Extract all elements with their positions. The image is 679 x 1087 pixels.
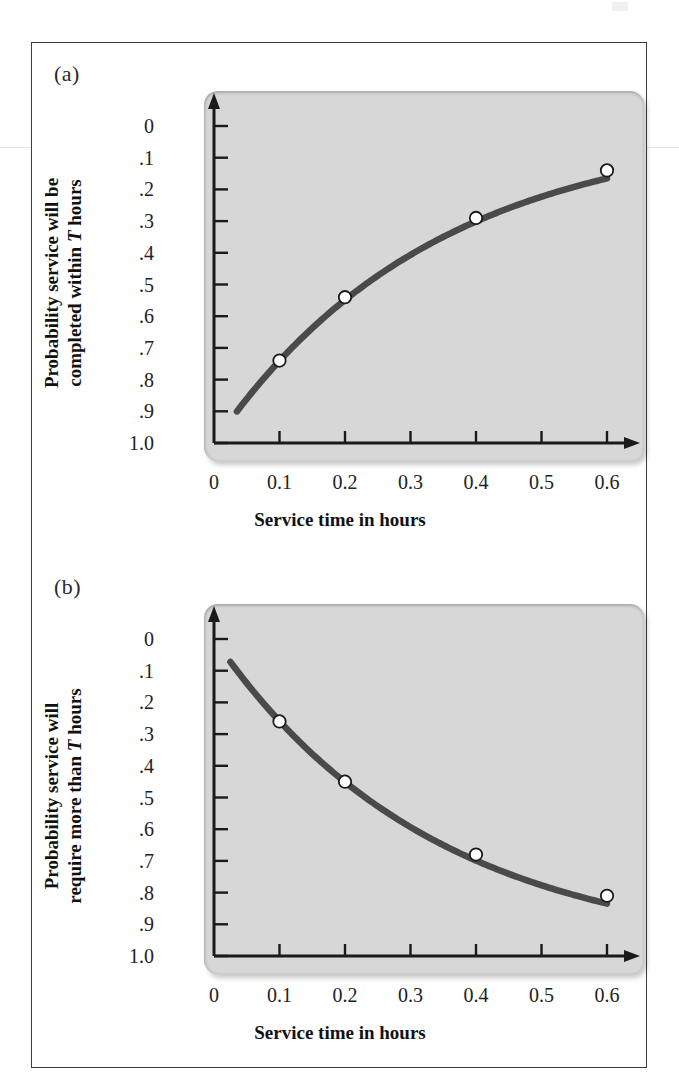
y-tick-label: 0 <box>96 115 154 138</box>
y-tick-label: .2 <box>96 691 154 714</box>
plot-area-b <box>204 604 644 974</box>
y-tick-label: .4 <box>96 241 154 264</box>
chart-panel-b: (b) Probability service will require mor… <box>32 556 648 1069</box>
y-tick-label: .8 <box>96 881 154 904</box>
y-tick-label: 1.0 <box>96 432 154 455</box>
plot-graphic-a <box>204 91 674 491</box>
y-tick-label: .3 <box>96 723 154 746</box>
x-tick-label: 0.5 <box>529 471 554 494</box>
y-axis-title-a-line1: Probability service will be <box>41 178 62 388</box>
y-tick-label: .1 <box>96 146 154 169</box>
x-tick-label: 0.2 <box>333 471 358 494</box>
y-axis-title-a-line2-post: hours <box>64 179 85 230</box>
y-tick-label: .3 <box>96 210 154 233</box>
x-tick-label: 0 <box>209 471 219 494</box>
chart-panel-a: (a) Probability service will be complete… <box>32 43 648 556</box>
x-tick-label: 0.2 <box>333 984 358 1007</box>
y-axis-title-b-line2-pre: require more than <box>64 751 85 904</box>
y-axis-title-b-line2-post: hours <box>64 688 85 739</box>
y-axis-title-a-wrap: Probability service will be completed wi… <box>32 83 94 483</box>
x-tick-label: 0.1 <box>267 984 292 1007</box>
y-tick-label: .5 <box>96 273 154 296</box>
y-tick-label: .2 <box>96 178 154 201</box>
plot-area-a <box>204 91 644 461</box>
x-tick-label: 0.6 <box>595 471 620 494</box>
x-tick-label: 0.1 <box>267 471 292 494</box>
y-tick-label: .1 <box>96 659 154 682</box>
y-tick-label: .9 <box>96 913 154 936</box>
x-tick-label: 0.4 <box>464 984 489 1007</box>
figure-frame: (a) Probability service will be complete… <box>31 42 647 1068</box>
y-axis-title-a-line2-pre: completed within <box>64 242 85 387</box>
y-tick-label: .6 <box>96 818 154 841</box>
y-tick-label: 1.0 <box>96 945 154 968</box>
x-tick-label: 0.6 <box>595 984 620 1007</box>
y-tick-label: .7 <box>96 336 154 359</box>
y-tick-label: .5 <box>96 786 154 809</box>
x-tick-label: 0.4 <box>464 471 489 494</box>
y-axis-title-a: Probability service will be completed wi… <box>40 178 86 388</box>
y-tick-label: .4 <box>96 754 154 777</box>
y-tick-label: .7 <box>96 849 154 872</box>
y-tick-label: .8 <box>96 368 154 391</box>
y-axis-title-b-line2-var: T <box>64 740 85 752</box>
scan-artifact <box>612 2 628 11</box>
x-tick-label: 0.5 <box>529 984 554 1007</box>
y-axis-title-b: Probability service will require more th… <box>40 688 86 903</box>
y-axis-title-b-line2: require more than T hours <box>63 688 86 903</box>
y-axis-title-a-line2-var: T <box>64 231 85 243</box>
x-axis-title-b: Service time in hours <box>32 1022 648 1044</box>
y-tick-label: 0 <box>96 628 154 651</box>
y-tick-label: .9 <box>96 400 154 423</box>
x-tick-label: 0.3 <box>398 984 423 1007</box>
x-axis-title-a: Service time in hours <box>32 509 648 531</box>
x-tick-label: 0.3 <box>398 471 423 494</box>
x-tick-label: 0 <box>209 984 219 1007</box>
y-tick-label: .6 <box>96 305 154 328</box>
x-tick-labels-b: 00.10.20.30.40.50.6 <box>32 984 648 1010</box>
y-axis-title-b-line1: Probability service will <box>41 703 62 889</box>
y-axis-title-a-line2: completed within T hours <box>63 178 86 388</box>
x-tick-labels-a: 00.10.20.30.40.50.6 <box>32 471 648 497</box>
plot-graphic-b <box>204 604 674 1004</box>
y-axis-title-b-wrap: Probability service will require more th… <box>32 596 94 996</box>
